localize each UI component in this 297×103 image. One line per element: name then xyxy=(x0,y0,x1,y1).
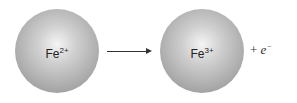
electron-term: + e− xyxy=(250,42,272,58)
reaction-arrow-icon xyxy=(107,51,150,52)
fe3-ion-sphere: Fe3+ xyxy=(160,9,244,93)
fe2-ion-sphere: Fe2+ xyxy=(15,9,99,93)
fe3-label: Fe3+ xyxy=(160,9,244,93)
fe2-label: Fe2+ xyxy=(15,9,99,93)
